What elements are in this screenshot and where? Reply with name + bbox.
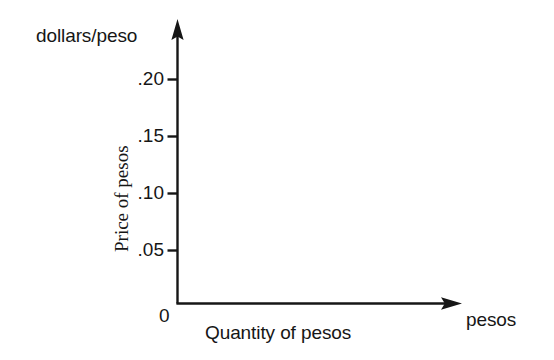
origin-label: 0 <box>159 306 170 325</box>
y-tick-label-group-15: .15 <box>118 126 164 145</box>
x-axis-unit-label: pesos <box>466 310 516 329</box>
figure-canvas: dollars/peso Price of pesos .20 .15 .10 … <box>0 0 554 360</box>
y-tick-label-group-10: .10 <box>118 183 164 202</box>
x-axis-title: Quantity of pesos <box>205 323 351 342</box>
y-tick-label-group-05: .05 <box>118 240 164 259</box>
y-axis-unit-label: dollars/peso <box>36 26 137 45</box>
y-tick-label-group-20: .20 <box>118 69 164 88</box>
y-tick-label-20: .20 <box>118 69 164 88</box>
y-tick-label-15: .15 <box>118 126 164 145</box>
y-tick-label-10: .10 <box>118 183 164 202</box>
plot-area <box>179 22 459 302</box>
y-tick-label-05: .05 <box>118 240 164 259</box>
